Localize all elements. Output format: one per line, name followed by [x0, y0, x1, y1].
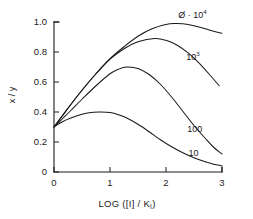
y-axis-title-text: x / y	[7, 86, 17, 103]
y-tick-label-4: 0.8	[34, 46, 47, 57]
x-tick-label-2: 2	[163, 177, 168, 188]
x-tick-label-0: 0	[51, 177, 56, 188]
y-tick-label-5: 1.0	[34, 16, 47, 27]
series-label-exponent-phi-10-4: 4	[203, 8, 207, 15]
series-label-base-phi-10-4: Ø · 10	[178, 10, 203, 20]
y-axis-title: x / y	[7, 86, 17, 103]
x-axis-title: LOG ([I] / KI)	[98, 198, 155, 210]
y-tick-label-2: 0.4	[34, 106, 47, 117]
series-label-10-3: 103	[186, 50, 200, 61]
series-label-base-10-3: 10	[186, 52, 196, 62]
svg-text:LOG ([I] / KI): LOG ([I] / KI)	[98, 198, 155, 210]
series-label-base-10: 10	[188, 148, 198, 158]
chart-figure: 00.20.40.60.81.00123 Ø · 10410310010 LOG…	[0, 0, 253, 219]
plot-canvas: 00.20.40.60.81.00123 Ø · 10410310010 LOG…	[0, 0, 253, 219]
series-label-100: 100	[187, 124, 202, 134]
series-label-phi-10-4: Ø · 104	[178, 8, 207, 19]
x-tick-label-1: 1	[107, 177, 112, 188]
series-label-base-100: 100	[187, 124, 202, 134]
y-tick-label-3: 0.6	[34, 76, 47, 87]
curve-100	[54, 67, 222, 154]
x-axis-title-main: LOG ([I] / K	[98, 198, 150, 209]
x-tick-label-3: 3	[219, 177, 224, 188]
x-axis-title-tail: )	[152, 198, 155, 209]
series-label-exponent-10-3: 3	[196, 50, 200, 57]
curve-series	[54, 23, 222, 165]
y-tick-label-0: 0	[42, 166, 47, 177]
y-tick-label-1: 0.2	[34, 136, 47, 147]
curve-phi-10-4	[54, 23, 222, 127]
series-label-10: 10	[188, 148, 198, 158]
